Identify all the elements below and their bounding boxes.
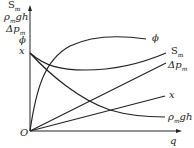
plot-area: [0, 0, 194, 148]
y-axis-arrow-icon: [28, 5, 32, 11]
label-rho: ρmgh: [168, 112, 192, 126]
x-axis-label: q: [170, 136, 176, 146]
curve-x: [30, 96, 165, 131]
label-sm: Sm: [171, 46, 184, 60]
y-label-phi: ϕ: [19, 35, 26, 45]
x-axis-arrow-icon: [176, 129, 182, 133]
chart: Sm ρmgh Δpm ϕ x ϕ Sm Δpm x ρmgh q O: [0, 0, 194, 148]
label-x: x: [169, 90, 175, 100]
curve-phi: [30, 37, 146, 131]
curve-sm: [30, 53, 166, 70]
label-dp: Δpm: [168, 60, 187, 74]
label-phi: ϕ: [152, 33, 159, 43]
curve-rho: [30, 53, 165, 117]
origin-label: O: [20, 128, 28, 138]
y-label-x: x: [19, 46, 25, 56]
